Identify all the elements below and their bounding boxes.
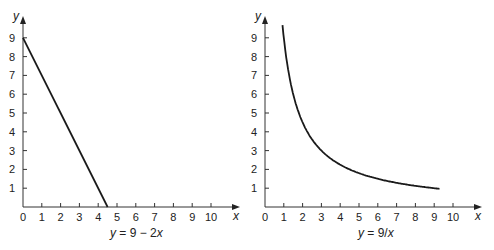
figure: 012345678910 123456789 y x y = 9 − 2x 01… <box>0 0 494 250</box>
x-tick-label: 4 <box>95 211 101 223</box>
y-tick-label: 3 <box>9 145 15 157</box>
x-tick-label: 8 <box>170 211 176 223</box>
x-tick-label: 7 <box>394 211 400 223</box>
right-y-axis-arrow-icon <box>262 16 268 24</box>
y-tick-label: 1 <box>9 182 15 194</box>
x-tick-label: 0 <box>20 211 26 223</box>
x-tick-label: 3 <box>76 211 82 223</box>
x-tick-label: 2 <box>300 211 306 223</box>
x-tick-label: 5 <box>356 211 362 223</box>
x-tick-label: 0 <box>262 211 268 223</box>
y-tick-label: 4 <box>9 126 15 138</box>
x-tick-label: 6 <box>133 211 139 223</box>
right-caption: y = 9/x <box>357 226 395 240</box>
y-tick-label: 8 <box>251 51 257 63</box>
right-x-ticks: 012345678910 <box>262 203 459 223</box>
y-tick-label: 8 <box>9 51 15 63</box>
y-tick-label: 2 <box>251 163 257 175</box>
y-tick-label: 9 <box>9 32 15 44</box>
left-caption: y = 9 − 2x <box>109 226 164 240</box>
y-tick-label: 5 <box>251 107 257 119</box>
left-x-ticks: 012345678910 <box>20 203 217 223</box>
left-y-axis-arrow-icon <box>20 16 26 24</box>
x-tick-label: 3 <box>318 211 324 223</box>
x-tick-label: 8 <box>412 211 418 223</box>
x-tick-label: 7 <box>152 211 158 223</box>
x-tick-label: 9 <box>189 211 195 223</box>
left-x-axis-label: x <box>232 209 240 223</box>
y-tick-label: 6 <box>9 88 15 100</box>
left-y-axis-label: y <box>12 9 20 23</box>
y-tick-label: 9 <box>251 32 257 44</box>
y-tick-label: 5 <box>9 107 15 119</box>
x-tick-label: 10 <box>447 211 459 223</box>
y-tick-label: 6 <box>251 88 257 100</box>
right-x-axis-label: x <box>474 209 482 223</box>
x-tick-label: 10 <box>205 211 217 223</box>
right-axes: 012345678910 123456789 y x <box>251 9 482 223</box>
x-tick-label: 1 <box>39 211 45 223</box>
right-series-curve <box>283 25 440 189</box>
y-tick-label: 4 <box>251 126 257 138</box>
y-tick-label: 1 <box>251 182 257 194</box>
right-y-ticks: 123456789 <box>251 32 269 194</box>
chart-linear: 012345678910 123456789 y x y = 9 − 2x 01… <box>0 0 494 250</box>
left-y-ticks: 123456789 <box>9 32 27 194</box>
x-tick-label: 2 <box>58 211 64 223</box>
y-tick-label: 7 <box>9 69 15 81</box>
x-tick-label: 4 <box>337 211 343 223</box>
right-y-axis-label: y <box>254 9 262 23</box>
y-tick-label: 3 <box>251 145 257 157</box>
x-tick-label: 9 <box>431 211 437 223</box>
y-tick-label: 2 <box>9 163 15 175</box>
x-tick-label: 1 <box>281 211 287 223</box>
x-tick-label: 5 <box>114 211 120 223</box>
left-series-line <box>23 38 108 207</box>
y-tick-label: 7 <box>251 69 257 81</box>
left-axes: 012345678910 123456789 y x <box>9 9 240 223</box>
x-tick-label: 6 <box>375 211 381 223</box>
